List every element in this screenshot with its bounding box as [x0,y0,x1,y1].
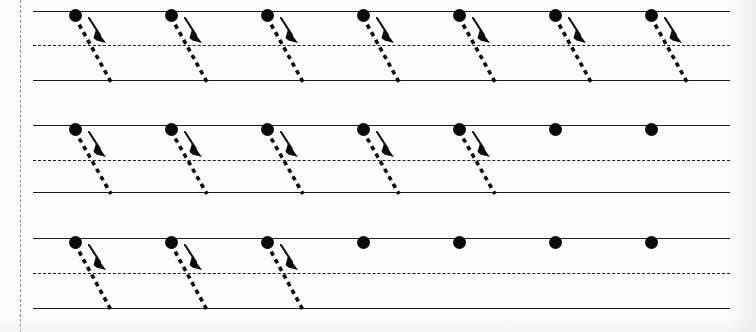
start-dot-icon [357,236,370,249]
practice-row-2-top-line [33,125,730,126]
stroke-direction-arrow-icon [277,243,311,277]
start-dot-icon [645,236,658,249]
stroke-direction-arrow-icon [181,130,215,164]
stroke-direction-arrow-icon [277,130,311,164]
stroke-direction-arrow-icon [469,16,503,50]
stroke-direction-arrow-icon [277,16,311,50]
practice-row-3-top-line [33,238,730,239]
page-edge-shading-bottom [0,318,756,332]
start-dot-icon [549,236,562,249]
stroke-direction-arrow-icon [469,130,503,164]
stroke-direction-arrow-icon [85,130,119,164]
practice-row-1-top-line [33,11,730,12]
start-dot-icon [645,123,658,136]
start-dot-icon [549,123,562,136]
stroke-direction-arrow-icon [85,243,119,277]
stroke-direction-arrow-icon [373,130,407,164]
stroke-direction-arrow-icon [181,243,215,277]
left-margin-rule [20,0,21,332]
page-edge-shading-right [730,0,756,332]
practice-row-3-mid-line [33,273,730,274]
stroke-direction-arrow-icon [565,16,599,50]
start-dot-icon [453,236,466,249]
stroke-direction-arrow-icon [181,16,215,50]
stroke-direction-arrow-icon [85,16,119,50]
stroke-direction-arrow-icon [373,16,407,50]
worksheet-page [0,0,756,332]
stroke-direction-arrow-icon [661,16,695,50]
practice-row-3-base-line [33,308,730,309]
